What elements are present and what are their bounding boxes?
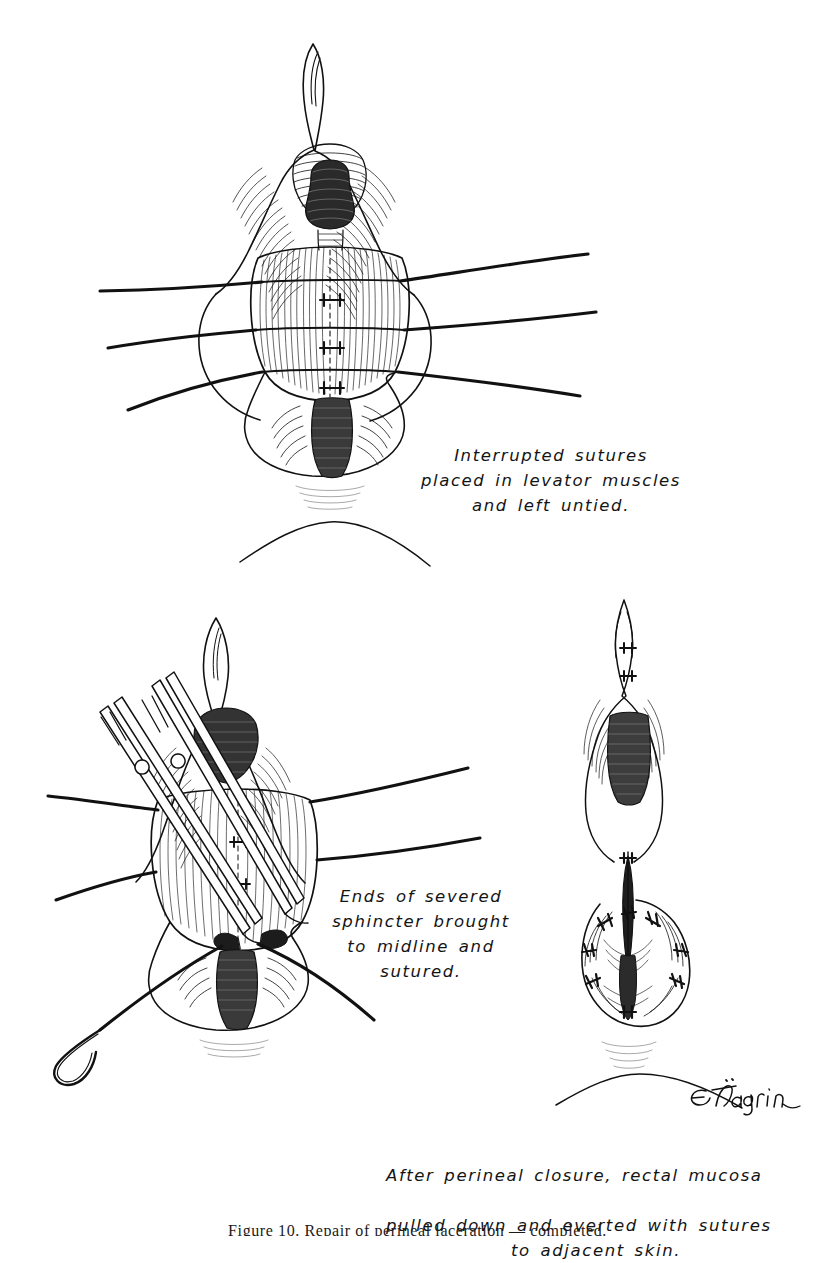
caption-panel-lower-left: Ends of severed sphincter brought to mid… (296, 884, 546, 984)
suture-needle (54, 1030, 100, 1085)
plate-footer-caption: Figure 10. Repair of perineal laceration… (0, 1222, 835, 1236)
caption-3-line-1: After perineal closure, rectal mucosa (386, 1166, 763, 1185)
panel-lower-right-figure (556, 600, 742, 1108)
buttock-contour-top (240, 522, 430, 566)
artist-signature (691, 1079, 800, 1115)
panel-lower-left-figure (48, 618, 480, 1085)
caption-panel-top: Interrupted sutures placed in levator mu… (386, 443, 716, 518)
buttock-contour-bottom (556, 1074, 742, 1108)
caption-3-line-3: to adjacent skin. (386, 1238, 806, 1263)
caption-panel-lower-right: After perineal closure, rectal mucosa pu… (386, 1138, 806, 1263)
suture-tail-group (100, 254, 596, 410)
